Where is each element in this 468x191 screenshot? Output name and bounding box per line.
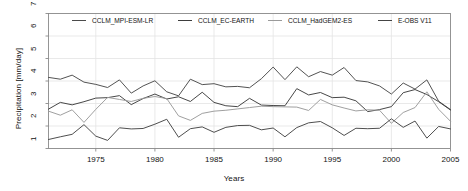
y-tick-label-2: 2	[29, 114, 38, 136]
legend-label-3: E-OBS V11	[398, 17, 432, 24]
x-tick-label-1975: 1975	[76, 155, 116, 164]
y-tick-label-4: 4	[29, 69, 38, 91]
legend-label-0: CCLM_MPI-ESM-LR	[92, 17, 153, 24]
x-tick-label-2000: 2000	[371, 155, 411, 164]
x-axis-title: Years	[0, 174, 468, 183]
y-tick-label-1: 1	[29, 136, 38, 158]
x-tick-label-1995: 1995	[312, 155, 352, 164]
legend-label-1: CCLM_EC-EARTH	[198, 17, 254, 24]
x-tick-label-1980: 1980	[135, 155, 175, 164]
y-tick-label-6: 6	[29, 24, 38, 46]
series-line-1	[49, 89, 451, 112]
gridlines	[49, 14, 451, 149]
series-line-2	[49, 92, 451, 124]
y-tick-label-3: 3	[29, 91, 38, 113]
y-tick-label-7: 7	[29, 1, 38, 23]
x-tick-label-2005: 2005	[431, 155, 468, 164]
precipitation-time-series-figure: Precipitation [mm/day] Years 19751980198…	[0, 0, 468, 191]
x-tick-label-1985: 1985	[194, 155, 234, 164]
tick-marks	[46, 14, 451, 152]
x-tick-label-1990: 1990	[253, 155, 293, 164]
legend-label-2: CCLM_HadGEM2-ES	[288, 17, 352, 24]
y-tick-label-5: 5	[29, 46, 38, 68]
y-axis-title: Precipitation [mm/day]	[14, 24, 23, 154]
